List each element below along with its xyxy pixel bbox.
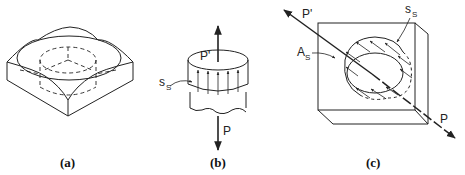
panel-c-caption: (c) [366, 155, 380, 170]
panel-c-drawing [284, 10, 455, 138]
panel-c-shear-label: s [405, 2, 411, 16]
figure-canvas: (a) P' s S P (b) [0, 0, 465, 175]
panel-c-shear-subscript: S [412, 10, 417, 19]
panel-a-caption: (a) [60, 155, 75, 170]
panel-a-drawing [7, 27, 133, 116]
panel-b-caption: (b) [210, 155, 226, 170]
panel-c-area-subscript: S [305, 53, 310, 62]
panel-b-drawing [170, 26, 248, 150]
panel-c-area-label: A [297, 45, 305, 59]
panel-c-force-top-label: P' [302, 7, 312, 21]
panel-c-force-bottom-label: P [440, 112, 448, 126]
panel-b-shear-label: s [159, 75, 165, 89]
panel-b-force-bottom-label: P [223, 124, 231, 138]
panel-b-force-top-label: P' [200, 49, 210, 63]
panel-b-shear-subscript: S [166, 83, 171, 92]
